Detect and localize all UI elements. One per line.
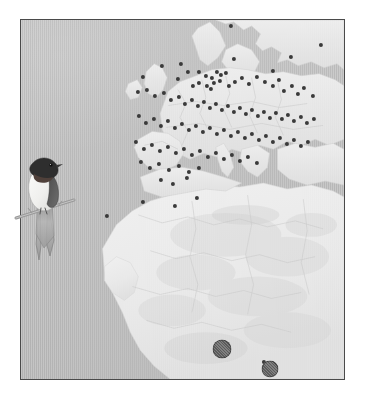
recovery-marker — [180, 122, 184, 126]
recovery-marker — [286, 113, 290, 117]
recovery-marker — [150, 143, 154, 147]
recovery-marker — [299, 144, 303, 148]
recovery-marker — [256, 114, 260, 118]
recovery-marker — [141, 200, 145, 204]
recovery-marker — [198, 149, 202, 153]
recovery-marker — [190, 98, 194, 102]
recovery-marker — [277, 78, 281, 82]
recovery-marker — [194, 124, 198, 128]
recovery-marker — [244, 112, 248, 116]
recovery-marker — [299, 115, 303, 119]
recovery-marker — [255, 161, 259, 165]
recovery-marker — [264, 134, 268, 138]
recovery-marker — [233, 80, 237, 84]
recovery-marker — [229, 24, 233, 28]
recovery-marker — [226, 104, 230, 108]
recovery-marker — [182, 147, 186, 151]
recovery-marker — [222, 128, 226, 132]
recovery-marker — [268, 116, 272, 120]
recovery-marker — [169, 98, 173, 102]
recovery-marker — [302, 86, 306, 90]
recovery-marker — [177, 95, 181, 99]
recovery-marker — [152, 117, 156, 121]
recovery-marker — [219, 73, 223, 77]
recovery-marker — [271, 69, 275, 73]
recovery-marker — [292, 119, 296, 123]
recovery-marker — [274, 111, 278, 115]
recovery-marker — [218, 79, 222, 83]
recovery-marker — [158, 149, 162, 153]
recovery-marker — [312, 117, 316, 121]
recovery-marker — [153, 94, 157, 98]
recovery-marker — [197, 70, 201, 74]
recovery-marker — [227, 84, 231, 88]
recovery-marker — [141, 75, 145, 79]
recovery-marker — [136, 90, 140, 94]
recovery-marker — [212, 81, 216, 85]
recovery-marker — [232, 110, 236, 114]
recovery-marker — [159, 124, 163, 128]
recovery-marker — [190, 153, 194, 157]
recovery-marker — [173, 204, 177, 208]
recovery-marker — [305, 121, 309, 125]
recovery-marker — [191, 84, 195, 88]
recovery-marker — [280, 117, 284, 121]
recovery-marker — [215, 132, 219, 136]
recovery-marker — [195, 196, 199, 200]
recovery-marker — [224, 71, 228, 75]
recovery-marker — [296, 92, 300, 96]
recovery-marker — [137, 114, 141, 118]
recovery-marker — [311, 94, 315, 98]
recovery-marker — [197, 81, 201, 85]
recovery-marker — [236, 130, 240, 134]
recovery-marker — [166, 145, 170, 149]
recovery-marker — [201, 130, 205, 134]
recovery-marker — [134, 140, 138, 144]
recovery-marker — [187, 128, 191, 132]
recovery-marker — [238, 159, 242, 163]
recovery-marker — [167, 168, 171, 172]
recovery-marker — [157, 162, 161, 166]
recovery-marker — [214, 102, 218, 106]
recovery-marker — [278, 136, 282, 140]
recovery-marker — [289, 55, 293, 59]
recovery-marker — [243, 136, 247, 140]
recovery-marker — [174, 151, 178, 155]
recovery-marker — [148, 166, 152, 170]
recovery-marker — [202, 100, 206, 104]
figure-page — [0, 0, 367, 398]
recovery-marker — [230, 153, 234, 157]
recovery-marker — [176, 77, 180, 81]
recovery-marker — [319, 43, 323, 47]
recovery-marker — [173, 126, 177, 130]
recovery-marker — [240, 76, 244, 80]
recovery-marker — [159, 178, 163, 182]
recovery-marker — [142, 147, 146, 151]
recovery-marker — [183, 102, 187, 106]
recovery-marker — [196, 104, 200, 108]
wintering-concentration-marker — [213, 340, 232, 359]
recovery-marker — [214, 151, 218, 155]
recovery-marker — [263, 80, 267, 84]
recovery-marker — [232, 57, 236, 61]
recovery-marker — [220, 108, 224, 112]
recovery-marker — [271, 84, 275, 88]
recovery-marker — [204, 74, 208, 78]
recovery-marker — [209, 87, 213, 91]
recovery-marker — [210, 76, 214, 80]
recovery-marker — [105, 214, 109, 218]
recovery-marker — [229, 134, 233, 138]
recovery-marker — [271, 140, 275, 144]
recovery-marker — [262, 110, 266, 114]
recovery-marker — [250, 108, 254, 112]
recovery-marker — [306, 140, 310, 144]
recovery-marker — [186, 70, 190, 74]
recovery-marker — [179, 62, 183, 66]
recovery-marker — [292, 138, 296, 142]
recovery-marker — [185, 176, 189, 180]
recovery-marker — [144, 121, 148, 125]
recovery-marker — [247, 82, 251, 86]
recovery-marker — [285, 142, 289, 146]
recovery-marker — [139, 160, 143, 164]
recovery-marker — [250, 132, 254, 136]
